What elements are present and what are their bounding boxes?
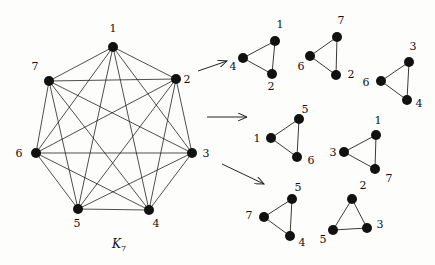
triangle-vertex-label-3: 3 [330, 146, 337, 159]
k7-nodes: 1234567 [16, 22, 210, 230]
triangle-vertex-label-5: 5 [320, 233, 327, 246]
triangle-vertex-4 [402, 95, 412, 105]
triangle-vertex-label-6: 6 [308, 154, 315, 167]
triangle-edge [407, 62, 409, 100]
triangle-vertex-label-1: 1 [375, 114, 382, 127]
k7-decomposition-diagram: 1234567 142762364516137574253 K7 [0, 0, 435, 265]
vertex-label-1: 1 [110, 22, 117, 35]
triangle-vertex-label-7: 7 [386, 172, 393, 185]
triangle-2: 762 [298, 14, 355, 81]
triangle-decomposition: 142762364516137574253 [230, 14, 423, 249]
edge-2-4 [149, 79, 176, 210]
triangle-vertex-4 [285, 231, 295, 241]
triangle-vertex-6 [376, 76, 386, 86]
triangle-edge [381, 62, 409, 81]
triangle-vertex-2 [267, 69, 277, 79]
edge-3-5 [78, 153, 192, 209]
edge-6-7 [36, 81, 49, 153]
triangle-vertex-label-5: 5 [302, 103, 309, 116]
triangle-vertex-label-3: 3 [410, 40, 417, 53]
triangle-vertex-6 [305, 51, 315, 61]
triangle-vertex-label-2: 2 [348, 68, 355, 81]
triangle-edge [336, 37, 337, 75]
vertex-label-7: 7 [32, 60, 39, 73]
vertex-5 [73, 204, 83, 214]
vertex-2 [171, 74, 181, 84]
triangle-vertex-1 [270, 36, 280, 46]
triangle-vertex-1 [266, 133, 276, 143]
arrows [198, 61, 264, 184]
triangle-vertex-label-7: 7 [338, 14, 345, 27]
edge-4-5 [78, 209, 149, 210]
triangle-vertex-3 [404, 57, 414, 67]
triangle-vertex-label-2: 2 [268, 80, 275, 93]
triangle-vertex-label-1: 1 [277, 18, 284, 31]
triangle-vertex-label-4: 4 [299, 236, 306, 249]
triangle-vertex-2 [347, 194, 357, 204]
graph-title-subscript: 7 [121, 244, 126, 253]
triangle-vertex-label-6: 6 [363, 76, 370, 89]
vertex-7 [44, 76, 54, 86]
edge-2-7 [49, 79, 176, 81]
triangle-vertex-2 [331, 70, 341, 80]
edge-3-4 [149, 153, 192, 210]
triangle-vertex-label-6: 6 [298, 60, 305, 73]
triangle-vertex-6 [292, 152, 302, 162]
vertex-3 [187, 148, 197, 158]
triangle-vertex-7 [370, 164, 380, 174]
vertex-4 [144, 205, 154, 215]
arrow-1 [198, 61, 227, 71]
triangle-vertex-label-4: 4 [416, 97, 423, 110]
vertex-1 [108, 42, 118, 52]
triangle-7: 253 [320, 179, 384, 246]
triangle-edge [243, 41, 275, 58]
triangle-6: 574 [246, 181, 306, 249]
triangle-vertex-label-7: 7 [246, 209, 253, 222]
triangle-vertex-3 [362, 223, 372, 233]
triangle-vertex-7 [332, 32, 342, 42]
triangle-vertex-label-4: 4 [230, 60, 237, 73]
triangle-vertex-5 [328, 225, 338, 235]
triangle-vertex-label-2: 2 [360, 179, 367, 192]
triangle-vertex-label-5: 5 [295, 181, 302, 194]
triangle-vertex-4 [238, 53, 248, 63]
triangle-edge [375, 135, 376, 169]
vertex-6 [31, 148, 41, 158]
vertex-label-3: 3 [203, 147, 210, 160]
k7-edges [36, 47, 192, 210]
edge-3-7 [49, 81, 192, 153]
triangle-vertex-label-1: 1 [254, 132, 261, 145]
triangle-edge [333, 228, 367, 230]
vertex-label-4: 4 [153, 217, 160, 230]
arrow-3 [222, 164, 264, 184]
triangle-edge [297, 119, 299, 157]
vertex-label-2: 2 [184, 73, 191, 86]
triangle-edge [344, 135, 376, 152]
graph-title: K7 [111, 237, 126, 253]
triangle-vertex-label-3: 3 [377, 218, 384, 231]
triangle-4: 516 [254, 103, 315, 167]
triangle-1: 142 [230, 18, 284, 93]
triangle-vertex-3 [339, 147, 349, 157]
edge-1-7 [49, 47, 113, 81]
triangle-edge [333, 199, 352, 230]
vertex-label-6: 6 [16, 147, 23, 160]
triangle-5: 137 [330, 114, 393, 185]
edge-1-2 [113, 47, 176, 79]
triangle-edge [290, 199, 292, 236]
triangle-vertex-5 [287, 194, 297, 204]
edge-2-5 [78, 79, 176, 209]
triangle-3: 364 [363, 40, 423, 110]
triangle-vertex-1 [371, 130, 381, 140]
triangle-edge [344, 152, 375, 169]
vertex-label-5: 5 [74, 217, 81, 230]
triangle-vertex-7 [259, 212, 269, 222]
triangle-edge [271, 119, 299, 138]
